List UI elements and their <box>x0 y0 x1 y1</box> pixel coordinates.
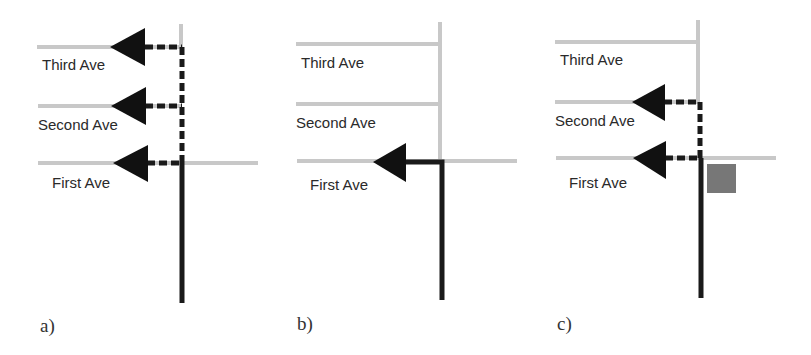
arrow-left-icon <box>373 143 406 182</box>
street-label-first: First Ave <box>52 174 110 191</box>
street-label-third: Third Ave <box>560 51 623 68</box>
street-label-second: Second Ave <box>38 116 118 133</box>
route-solid <box>405 162 442 300</box>
panel-label-b: b) <box>297 313 313 335</box>
arrow-left-icon <box>110 28 145 66</box>
panel-b: Third Ave Second Ave First Ave b) <box>296 22 517 335</box>
arrow-left-icon <box>633 141 666 179</box>
arrow-left-icon <box>632 84 665 121</box>
panel-c: Third Ave Second Ave First Ave c) <box>555 20 776 335</box>
panel-a: Third Ave Second Ave First Ave a) <box>37 24 258 337</box>
street-label-second: Second Ave <box>555 112 635 129</box>
street-label-third: Third Ave <box>301 54 364 71</box>
landmark-square <box>707 164 736 193</box>
panel-label-a: a) <box>40 315 55 337</box>
arrow-left-icon <box>113 145 148 182</box>
street-label-first: First Ave <box>310 176 368 193</box>
street-label-second: Second Ave <box>296 114 376 131</box>
street-label-third: Third Ave <box>42 56 105 73</box>
street-label-first: First Ave <box>569 174 627 191</box>
route-diagram: Third Ave Second Ave First Ave a) Third … <box>0 0 811 355</box>
panel-label-c: c) <box>557 313 572 335</box>
